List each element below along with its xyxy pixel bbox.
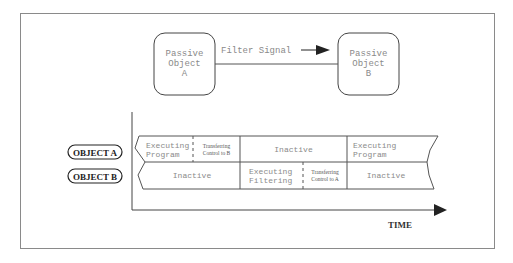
signal-label: Filter Signal (221, 46, 291, 56)
object-b-segment-inactive-2: Inactive (367, 171, 406, 180)
passive-object-b-line1: Passive (350, 49, 388, 59)
passive-object-b-line3: B (366, 69, 372, 79)
passive-object-a-line1: Passive (166, 49, 204, 59)
svg-text:OBJECT A: OBJECT A (73, 148, 118, 158)
svg-text:OBJECT B: OBJECT B (73, 172, 117, 182)
passive-object-a-line2: Object (168, 59, 200, 69)
object-a-segment-executing-program-2: Executing Program (353, 141, 396, 159)
object-a-segment-inactive: Inactive (274, 145, 313, 154)
svg-text:Inactive: Inactive (173, 171, 212, 180)
object-a-segment-executing-program: Executing Program (146, 141, 189, 159)
time-label: TIME (388, 220, 412, 230)
signal-arrow-icon (301, 45, 330, 55)
passive-object-b-line2: Object (352, 59, 384, 69)
svg-text:Executing: Executing (353, 141, 396, 150)
object-b-label: OBJECT B (68, 169, 122, 183)
svg-text:Transferring: Transferring (311, 169, 339, 175)
time-arrow-icon (434, 204, 447, 216)
svg-text:Filtering: Filtering (249, 176, 292, 185)
object-b-segment-inactive: Inactive (173, 171, 212, 180)
object-b-segment-executing-filtering: Executing Filtering (249, 167, 292, 185)
passive-object-a: Passive Object A (154, 33, 215, 95)
svg-text:Executing: Executing (146, 141, 189, 150)
object-a-label: OBJECT A (68, 145, 122, 159)
svg-text:Program: Program (146, 150, 180, 159)
svg-text:Control to A: Control to A (311, 176, 339, 182)
svg-text:Control to B: Control to B (203, 150, 231, 156)
svg-text:Transferring: Transferring (203, 143, 231, 149)
svg-text:Program: Program (353, 150, 387, 159)
diagram-canvas: Passive Object A Passive Object B Filter… (0, 0, 513, 263)
svg-text:Executing: Executing (249, 167, 292, 176)
passive-object-a-line3: A (182, 69, 188, 79)
object-b-segment-transferring-control: Transferring Control to A (311, 169, 339, 182)
passive-object-b: Passive Object B (338, 33, 399, 95)
svg-text:Inactive: Inactive (274, 145, 313, 154)
object-a-segment-transferring-control: Transferring Control to B (203, 143, 231, 156)
svg-text:Inactive: Inactive (367, 171, 406, 180)
